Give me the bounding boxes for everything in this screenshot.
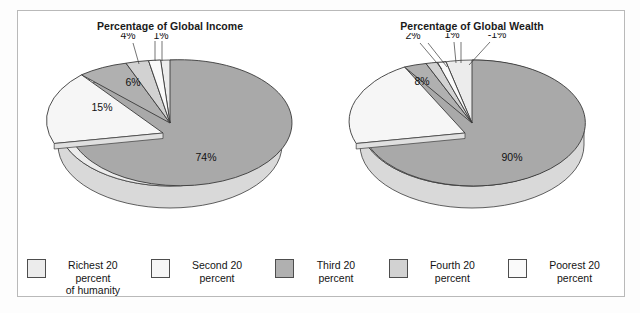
chart-title-income: Percentage of Global Income [18, 20, 322, 32]
legend-swatch-fourth [389, 259, 408, 278]
legend-item-poorest[interactable]: Poorest 20 percent [508, 258, 615, 284]
data-label-wealth-4: -1% [488, 33, 507, 40]
chart-legend: Richest 20 percent of humanity Second 20… [18, 249, 624, 296]
data-label-income-0: 74% [195, 151, 216, 163]
legend-label-fourth: Fourth 20 percent [415, 258, 490, 284]
data-label-wealth-3: 1% [444, 33, 459, 40]
chart-frame: Percentage of Global Income [17, 10, 625, 297]
legend-swatch-second [151, 259, 170, 278]
chart-panel-wealth: Percentage of Global Wealth [320, 11, 624, 243]
pie-chart-wealth: 90% 8% 2% 1% -1% [342, 33, 602, 238]
chart-title-wealth: Percentage of Global Wealth [320, 20, 624, 32]
legend-item-richest[interactable]: Richest 20 percent of humanity [27, 258, 133, 297]
chart-panel-income: Percentage of Global Income [18, 11, 322, 243]
data-label-wealth-0: 90% [501, 151, 522, 163]
legend-swatch-third [275, 259, 294, 278]
legend-item-fourth[interactable]: Fourth 20 percent [389, 258, 490, 284]
data-label-income-2: 6% [125, 76, 140, 88]
legend-label-second: Second 20 percent [177, 258, 257, 284]
legend-label-richest: Richest 20 percent of humanity [53, 258, 133, 297]
legend-label-third: Third 20 percent [301, 258, 370, 284]
data-label-wealth-2: 2% [405, 33, 420, 41]
data-label-wealth-1: 8% [414, 75, 429, 87]
legend-item-second[interactable]: Second 20 percent [151, 258, 257, 284]
data-label-income-1: 15% [91, 101, 112, 113]
legend-swatch-richest [27, 259, 46, 278]
legend-swatch-poorest [508, 259, 527, 278]
data-label-income-3: 4% [120, 33, 135, 41]
leader-line-income-4 [133, 43, 139, 64]
leader-line-wealth-1 [454, 42, 456, 63]
pie-chart-income: 74% 15% 6% 4% 1% [40, 33, 300, 238]
figure-canvas: Percentage of Global Income [0, 0, 640, 313]
legend-item-third[interactable]: Third 20 percent [275, 258, 370, 284]
data-label-income-4: 1% [153, 33, 168, 41]
legend-label-poorest: Poorest 20 percent [534, 258, 615, 284]
